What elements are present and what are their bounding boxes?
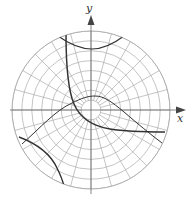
hyperbola-bottom-left-arc <box>19 137 64 186</box>
polar-diagram: x y <box>0 0 194 202</box>
y-axis-arrow-icon <box>88 15 95 25</box>
x-axis-label: x <box>177 112 184 125</box>
grid-radial-line <box>98 54 147 103</box>
grid-radial-line <box>98 117 147 166</box>
y-axis-label: y <box>85 2 93 15</box>
grid-radial-line <box>35 54 84 103</box>
